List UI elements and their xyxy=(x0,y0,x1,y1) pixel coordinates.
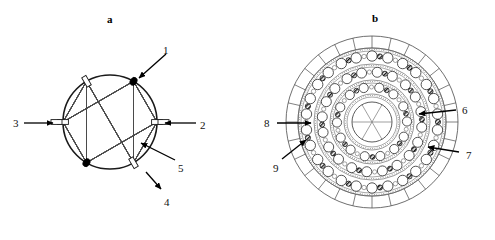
conductor-strand[interactable] xyxy=(375,83,384,92)
conductor-strand[interactable] xyxy=(389,90,398,99)
stipple-dot xyxy=(356,159,357,160)
conductor-strand[interactable] xyxy=(312,154,322,164)
insulated-conductor-strand[interactable] xyxy=(305,135,310,140)
stipple-dot xyxy=(362,193,363,194)
conductor-strand[interactable] xyxy=(383,181,393,191)
conductor-strand[interactable] xyxy=(357,68,367,78)
conductor-strand[interactable] xyxy=(397,175,407,185)
conductor-strand[interactable] xyxy=(362,167,372,177)
conductor-strand[interactable] xyxy=(318,127,328,137)
stipple-dot xyxy=(383,66,384,67)
conductor-strand[interactable] xyxy=(301,125,311,135)
conductor-strand[interactable] xyxy=(351,53,361,63)
stipple-dot xyxy=(338,167,339,168)
insulated-conductor-strand[interactable] xyxy=(404,111,409,116)
conductor-strand[interactable] xyxy=(432,109,442,119)
conductor-strand[interactable] xyxy=(342,74,352,84)
insulated-conductor-strand[interactable] xyxy=(346,181,351,186)
conductor-strand[interactable] xyxy=(411,67,421,77)
insulated-conductor-strand[interactable] xyxy=(335,112,340,117)
stipple-dot xyxy=(319,141,320,142)
insulated-conductor-strand[interactable] xyxy=(428,89,433,94)
conductor-strand[interactable] xyxy=(400,80,410,90)
conductor-strand[interactable] xyxy=(429,93,439,103)
conductor-strand[interactable] xyxy=(421,79,431,89)
conductor-strand[interactable] xyxy=(390,144,399,153)
stipple-dot xyxy=(421,94,422,95)
conductor-strand[interactable] xyxy=(324,142,334,152)
conductor-strand[interactable] xyxy=(387,71,397,81)
conductor-strand[interactable] xyxy=(392,160,402,170)
stipple-dot xyxy=(396,154,397,155)
conductor-strand[interactable] xyxy=(336,103,345,112)
insulated-conductor-strand[interactable] xyxy=(382,71,387,76)
insulated-conductor-strand[interactable] xyxy=(352,73,357,78)
conductor-strand[interactable] xyxy=(416,107,426,117)
conductor-strand[interactable] xyxy=(372,67,382,77)
insulated-conductor-strand[interactable] xyxy=(377,54,382,59)
conductor-strand[interactable] xyxy=(360,152,369,161)
insulated-conductor-strand[interactable] xyxy=(370,155,375,160)
conductor-strand[interactable] xyxy=(399,102,408,111)
conductor-strand[interactable] xyxy=(377,166,387,176)
conductor-strand[interactable] xyxy=(432,125,442,135)
conductor-strand[interactable] xyxy=(376,151,385,160)
stipple-dot xyxy=(346,127,347,128)
insulated-conductor-strand[interactable] xyxy=(387,166,392,171)
terminal-lower-right[interactable] xyxy=(129,157,139,169)
stipple-dot xyxy=(392,138,393,139)
conductor-strand[interactable] xyxy=(321,97,331,107)
conductor-strand[interactable] xyxy=(345,90,354,99)
insulated-conductor-strand[interactable] xyxy=(320,122,325,127)
conductor-strand[interactable] xyxy=(317,112,327,122)
terminal-upper-left[interactable] xyxy=(129,76,139,86)
insulated-conductor-strand[interactable] xyxy=(384,88,389,93)
insulated-conductor-strand[interactable] xyxy=(346,58,351,63)
insulated-conductor-strand[interactable] xyxy=(331,151,336,156)
conductor-strand[interactable] xyxy=(305,93,315,103)
insulated-conductor-strand[interactable] xyxy=(357,168,362,173)
conductor-strand[interactable] xyxy=(399,132,408,141)
insulated-conductor-strand[interactable] xyxy=(354,88,359,93)
insulated-conductor-strand[interactable] xyxy=(408,88,413,93)
conductor-strand[interactable] xyxy=(404,150,414,160)
conductor-strand[interactable] xyxy=(332,118,341,127)
insulated-conductor-strand[interactable] xyxy=(328,92,333,97)
conductor-strand[interactable] xyxy=(383,53,393,63)
insulated-conductor-strand[interactable] xyxy=(305,104,310,109)
filler-strand xyxy=(419,164,423,168)
stipple-dot xyxy=(342,56,343,57)
conductor-strand[interactable] xyxy=(305,140,315,150)
conductor-strand[interactable] xyxy=(351,181,361,191)
conductor-strand[interactable] xyxy=(367,183,377,193)
insulated-conductor-strand[interactable] xyxy=(343,142,348,147)
conductor-strand[interactable] xyxy=(347,163,357,173)
conductor-strand[interactable] xyxy=(336,133,345,142)
terminal-lower-left[interactable] xyxy=(82,157,92,167)
insulated-conductor-strand[interactable] xyxy=(397,141,402,146)
conductor-strand[interactable] xyxy=(323,67,333,77)
conductor-strand[interactable] xyxy=(367,51,377,61)
conductor-strand[interactable] xyxy=(359,83,368,92)
conductor-strand[interactable] xyxy=(410,92,420,102)
conductor-strand[interactable] xyxy=(397,58,407,68)
insulated-conductor-strand[interactable] xyxy=(377,185,382,190)
conductor-strand[interactable] xyxy=(330,84,340,94)
conductor-strand[interactable] xyxy=(417,122,427,132)
conductor-strand[interactable] xyxy=(334,154,344,164)
insulated-conductor-strand[interactable] xyxy=(419,117,424,122)
insulated-conductor-strand[interactable] xyxy=(435,119,440,124)
conductor-strand[interactable] xyxy=(336,175,346,185)
stipple-dot xyxy=(430,79,431,80)
conductor-strand[interactable] xyxy=(301,109,311,119)
conductor-strand[interactable] xyxy=(402,117,411,126)
insulated-conductor-strand[interactable] xyxy=(411,147,416,152)
terminal-upper-right[interactable] xyxy=(82,75,92,87)
stipple-dot xyxy=(418,66,419,67)
conductor-strand[interactable] xyxy=(336,58,346,68)
stipple-dot xyxy=(402,169,403,170)
conductor-strand[interactable] xyxy=(346,145,355,154)
conductor-strand[interactable] xyxy=(413,137,423,147)
stipple-dot xyxy=(376,178,377,179)
conductor-strand[interactable] xyxy=(421,154,431,164)
